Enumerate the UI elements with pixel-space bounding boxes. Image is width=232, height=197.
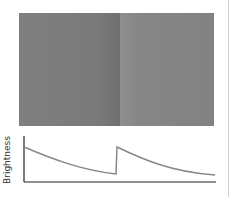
brightness-plot <box>0 130 232 197</box>
brightness-curve <box>24 147 215 175</box>
stimulus-left-half <box>19 13 120 126</box>
cornsweet-stimulus <box>19 13 214 126</box>
stimulus-right-half <box>120 13 214 126</box>
page-edge-rule <box>228 0 229 197</box>
